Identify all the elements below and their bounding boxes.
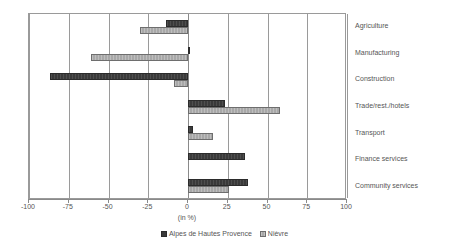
bar-segment (188, 153, 245, 160)
bar-segment (188, 107, 280, 114)
bar-group (29, 67, 345, 94)
bar-chart: -100-75-50-250255075100 (in %) Agricultu… (0, 0, 449, 247)
bar-segment (91, 54, 188, 61)
bar-segment (188, 179, 248, 186)
x-tick-label: -50 (88, 203, 128, 210)
category-label: Trade/rest./hotels (355, 101, 409, 110)
bar-group (29, 41, 345, 68)
bar-segment (140, 27, 188, 34)
legend-label: Alpes de Hautes Provence (169, 230, 252, 237)
bar-group (29, 14, 345, 41)
bar-group (29, 147, 345, 174)
bar-segment (188, 100, 225, 107)
category-label: Finance services (355, 154, 408, 163)
category-label: Agriculture (355, 21, 388, 30)
bar-segment (188, 126, 193, 133)
x-tick-label: 25 (207, 203, 247, 210)
x-tick-label: -25 (127, 203, 167, 210)
legend-entry: Nièvre (260, 230, 288, 237)
legend-swatch-icon (161, 231, 167, 237)
bar-segment (188, 133, 213, 140)
category-label: Manufacturing (355, 48, 399, 57)
bar-rows (29, 14, 345, 198)
x-tick-label: 75 (286, 203, 326, 210)
legend-swatch-icon (260, 231, 266, 237)
bar-group (29, 120, 345, 147)
category-label: Community services (355, 181, 418, 190)
plot-area (28, 13, 346, 199)
category-label: Construction (355, 74, 394, 83)
bar-group (29, 173, 345, 200)
x-tick-label: 50 (247, 203, 287, 210)
bar-segment (188, 47, 190, 54)
x-tick-label: 0 (167, 203, 207, 210)
x-tick-label: -100 (8, 203, 48, 210)
x-tick-label: 100 (326, 203, 366, 210)
bar-group (29, 94, 345, 121)
x-tick-label: -75 (48, 203, 88, 210)
bar-segment (174, 80, 188, 87)
chart-legend: Alpes de Hautes ProvenceNièvre (0, 229, 449, 237)
legend-label: Nièvre (268, 230, 288, 237)
bar-segment (50, 73, 188, 80)
category-label: Transport (355, 128, 385, 137)
x-axis-title: (in %) (28, 214, 346, 221)
gridline-100 (347, 14, 348, 198)
bar-segment (166, 20, 188, 27)
bar-segment (188, 186, 229, 193)
legend-entry: Alpes de Hautes Provence (161, 230, 252, 237)
category-labels: AgricultureManufacturingConstructionTrad… (355, 13, 449, 199)
